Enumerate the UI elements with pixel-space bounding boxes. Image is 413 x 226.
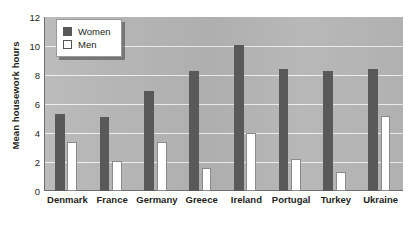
y-axis-tick: 8 (35, 70, 40, 81)
x-axis-tick-denmark: Denmark (45, 194, 90, 205)
bar-men-germany[interactable] (157, 142, 167, 191)
x-axis-tick-portugal: Portugal (269, 194, 314, 205)
x-axis-tick-ireland: Ireland (224, 194, 269, 205)
x-axis-tick-labels: DenmarkFranceGermanyGreeceIrelandPortuga… (45, 194, 403, 205)
y-axis-tick: 0 (35, 186, 40, 197)
legend-item-men: Men (63, 39, 111, 50)
bar-women-denmark[interactable] (55, 114, 65, 191)
y-axis-tick: 2 (35, 157, 40, 168)
bar-men-france[interactable] (112, 161, 122, 191)
bar-group (135, 17, 180, 191)
bar-men-ukraine[interactable] (381, 116, 391, 191)
bar-group (358, 17, 403, 191)
x-axis-tick-ukraine: Ukraine (358, 194, 403, 205)
chart-figure: Mean housework hours 024681012 DenmarkFr… (0, 0, 413, 226)
bar-women-portugal[interactable] (279, 69, 289, 191)
legend-swatch-men-icon (63, 40, 72, 49)
x-axis-tick-france: France (90, 194, 135, 205)
bar-women-ireland[interactable] (234, 45, 244, 191)
y-axis-title-label: Mean housework hours (10, 41, 21, 149)
bar-women-turkey[interactable] (323, 71, 333, 191)
bar-group (179, 17, 224, 191)
x-axis-tick-greece: Greece (179, 194, 224, 205)
bar-women-ukraine[interactable] (368, 69, 378, 191)
chart-legend: Women Men (56, 19, 122, 57)
bar-men-denmark[interactable] (67, 142, 77, 191)
x-axis-tick-turkey: Turkey (314, 194, 359, 205)
legend-swatch-women-icon (63, 27, 72, 36)
bar-men-greece[interactable] (202, 168, 212, 191)
y-axis-tick: 4 (35, 128, 40, 139)
bar-group (224, 17, 269, 191)
bar-men-portugal[interactable] (291, 159, 301, 191)
legend-item-women: Women (63, 26, 111, 37)
legend-label-women: Women (78, 26, 111, 37)
legend-label-men: Men (78, 39, 96, 50)
bar-women-greece[interactable] (189, 71, 199, 191)
bar-group (314, 17, 359, 191)
y-axis-tick: 10 (29, 41, 40, 52)
y-axis-tick: 6 (35, 99, 40, 110)
bar-men-ireland[interactable] (246, 133, 256, 191)
y-axis-title: Mean housework hours (6, 0, 24, 190)
x-axis-tick-germany: Germany (135, 194, 180, 205)
bar-men-turkey[interactable] (336, 172, 346, 191)
bar-group (269, 17, 314, 191)
y-axis-tick: 12 (29, 12, 40, 23)
y-axis-tick-labels: 024681012 (24, 0, 42, 226)
bar-women-france[interactable] (100, 117, 110, 191)
bar-women-germany[interactable] (144, 91, 154, 191)
